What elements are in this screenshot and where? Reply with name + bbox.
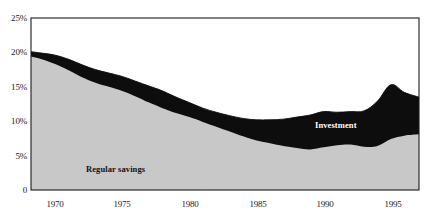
x-tick-label-1975: 1975	[102, 199, 142, 209]
x-tick-label-1985: 1985	[238, 199, 278, 209]
x-tick-label-1980: 1980	[170, 199, 210, 209]
y-tick-label-20: 20%	[0, 47, 27, 57]
y-tick-label-25: 25%	[0, 13, 27, 23]
y-tick-label-5: 5%	[0, 151, 27, 161]
x-tick-label-1970: 1970	[35, 199, 75, 209]
chart-figure: 25% 20% 15% 10% 5% 0 1970 1975 1980 1985…	[0, 0, 435, 221]
stacked-area-chart	[0, 0, 435, 221]
x-tick-label-1990: 1990	[305, 199, 345, 209]
y-tick-label-0: 0	[0, 185, 27, 195]
y-tick-label-10: 10%	[0, 116, 27, 126]
x-tick-label-1995: 1995	[373, 199, 413, 209]
annotation-investment: Investment	[315, 120, 357, 130]
y-tick-label-15: 15%	[0, 82, 27, 92]
annotation-regular-savings: Regular savings	[86, 164, 145, 174]
